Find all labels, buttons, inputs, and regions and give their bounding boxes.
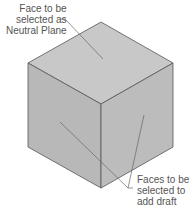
label-line: Face to be <box>6 3 67 14</box>
draft-faces-label: Faces to be selected to add draft <box>137 174 189 207</box>
label-line: selected as <box>6 14 67 25</box>
label-line: selected to <box>137 185 189 196</box>
label-line: Neutral Plane <box>6 25 67 36</box>
neutral-plane-label: Face to be selected as Neutral Plane <box>6 3 67 36</box>
label-line: add draft <box>137 196 189 207</box>
label-line: Faces to be <box>137 174 189 185</box>
